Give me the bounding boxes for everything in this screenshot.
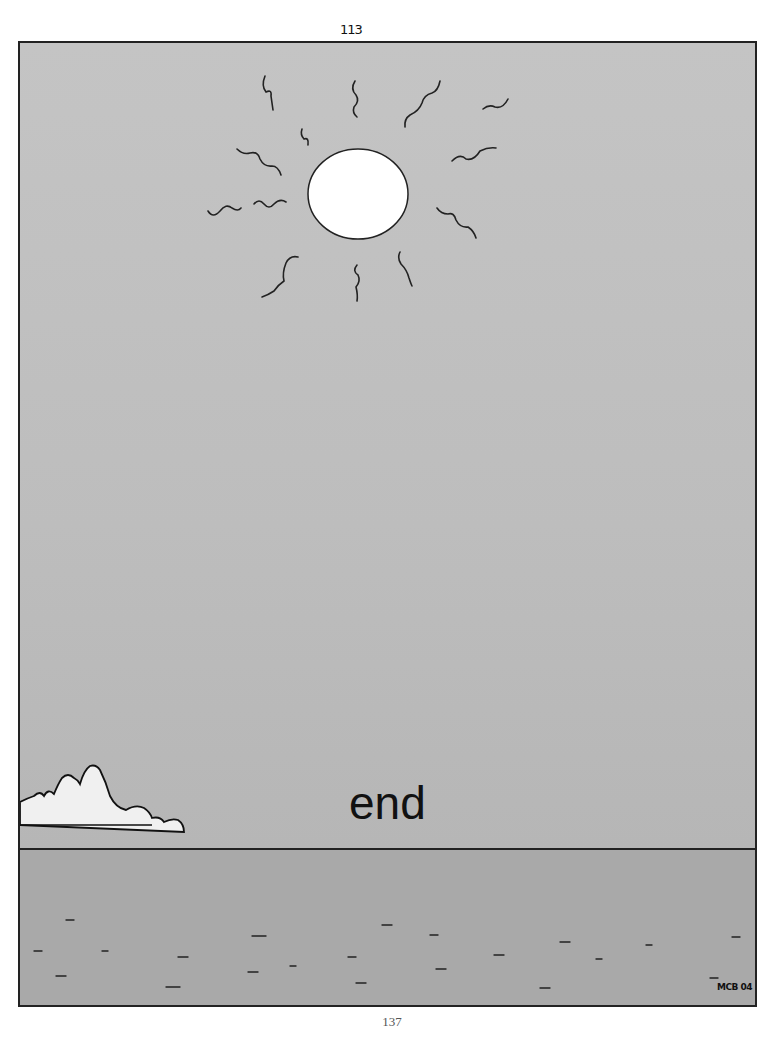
sea-wave-marks xyxy=(34,920,740,988)
drawing-layer xyxy=(20,43,757,1007)
end-caption: end xyxy=(349,776,426,830)
printed-page-number: 137 xyxy=(0,1014,784,1030)
artist-signature: MCB 04 xyxy=(717,982,752,992)
comic-panel: end MCB 04 xyxy=(18,41,757,1007)
sun-icon xyxy=(308,149,408,239)
cloud-icon xyxy=(20,766,184,833)
hand-page-number: 113 xyxy=(340,22,362,37)
